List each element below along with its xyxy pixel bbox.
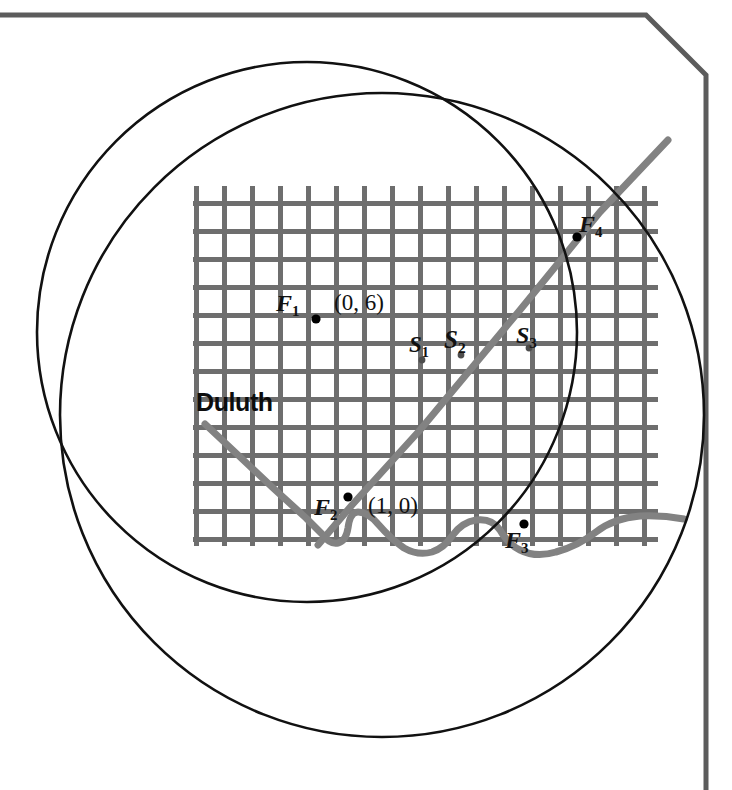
label-S2-letter: S [444,326,458,353]
label-F3: F3 [505,528,528,556]
label-S1-subscript: 1 [422,344,429,360]
figure-canvas: F1 (0, 6) F2 (1, 0) F3 F4 S1 S2 S3 Dulut… [0,0,732,790]
label-S2: S2 [444,327,466,355]
shoreline-path [205,424,684,555]
label-F2-subscript: 2 [330,507,337,523]
coordinate-grid [193,186,658,546]
label-F2-letter: F [314,494,330,520]
label-F1-subscript: 1 [292,303,299,319]
label-F3-letter: F [505,527,521,553]
page-border [0,15,706,790]
figure-graphics [0,0,732,790]
label-F2-coordinate: (1, 0) [368,494,418,517]
point-F1[interactable] [311,314,320,323]
label-S3-subscript: 3 [529,335,536,351]
label-F2: F2 [314,495,337,523]
label-F4: F4 [579,212,602,240]
label-F4-subscript: 4 [595,224,602,240]
label-F1-letter: F [276,290,292,316]
label-F1-coordinate: (0, 6) [334,291,384,314]
range-circle-2 [60,93,704,737]
label-F3-subscript: 3 [521,540,528,556]
label-S1-letter: S [409,332,422,357]
label-S3-letter: S [516,322,529,348]
label-city-duluth: Duluth [196,390,273,415]
label-F1: F1 [276,291,299,319]
label-F4-letter: F [579,211,595,237]
point-F2[interactable] [343,492,352,501]
label-S3: S3 [516,323,537,351]
label-S2-subscript: 2 [458,339,466,356]
label-S1: S1 [409,333,429,359]
